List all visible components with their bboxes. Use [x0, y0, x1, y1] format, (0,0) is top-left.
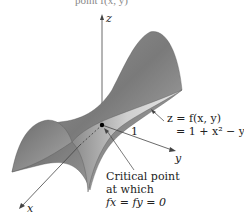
y-axis-label: y: [175, 153, 181, 165]
critical-point-dot: [100, 123, 104, 127]
saddle-surface-figure: point f(x, y): [0, 0, 244, 219]
z-axis-label: z: [106, 13, 112, 25]
critical-point-label-line3: fx = fy = 0: [106, 197, 166, 209]
function-label-line2: = 1 + x² − y²: [176, 126, 244, 138]
x-axis-label: x: [27, 203, 33, 215]
tick-label-one: 1: [131, 126, 138, 138]
critical-point-label-line2: at which: [106, 184, 154, 196]
critical-point-label-line1: Critical point: [106, 171, 180, 183]
saddle-surface-back: [12, 32, 182, 190]
function-label-line1: z = f(x, y): [167, 113, 221, 125]
function-leader: [154, 112, 164, 121]
critical-point-leader: [107, 131, 134, 170]
z-axis-arrowhead: [100, 14, 104, 20]
